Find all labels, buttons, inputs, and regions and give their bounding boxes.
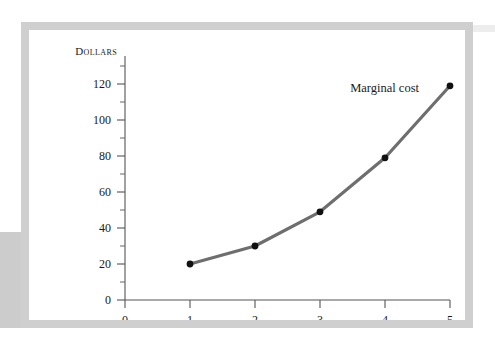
x-axis-ticks: [125, 300, 450, 308]
marginal-cost-curve: [190, 86, 450, 264]
x-tick-label-4: 4: [382, 313, 388, 320]
y-minor-ticks: [120, 66, 125, 282]
data-point-4: [382, 154, 389, 161]
data-point-1: [187, 261, 194, 268]
y-major-ticks: [117, 84, 125, 300]
data-point-5: [447, 82, 454, 89]
x-tick-label-1: 1: [187, 313, 193, 320]
data-point-2: [252, 243, 259, 250]
y-axis-title: Dollars: [75, 45, 117, 57]
y-tick-label-100: 100: [93, 113, 111, 127]
series-label-marginal-cost: Marginal cost: [350, 81, 419, 95]
x-tick-label-3: 3: [317, 313, 323, 320]
data-point-3: [317, 208, 324, 215]
y-tick-label-120: 120: [93, 77, 111, 91]
y-tick-label-60: 60: [99, 185, 111, 199]
page-left-margin: [0, 0, 21, 232]
x-tick-label-2: 2: [252, 313, 258, 320]
y-tick-label-20: 20: [99, 257, 111, 271]
x-tick-label-5: 5: [447, 313, 453, 320]
y-tick-label-80: 80: [99, 149, 111, 163]
x-tick-label-0: 0: [122, 313, 128, 320]
y-tick-label-40: 40: [99, 221, 111, 235]
chart-plot-area: 0 20 40 60 80 100 120 0 1 2 3 4 5 Dollar…: [29, 30, 465, 320]
y-tick-label-0: 0: [105, 293, 111, 307]
data-point-markers: [187, 82, 454, 267]
figure-frame: 0 20 40 60 80 100 120 0 1 2 3 4 5 Dollar…: [21, 22, 473, 328]
marginal-cost-line-chart: 0 20 40 60 80 100 120 0 1 2 3 4 5 Dollar…: [29, 30, 465, 320]
page-canvas: 0 20 40 60 80 100 120 0 1 2 3 4 5 Dollar…: [0, 0, 495, 350]
figure-panel: 0 20 40 60 80 100 120 0 1 2 3 4 5 Dollar…: [29, 30, 465, 320]
